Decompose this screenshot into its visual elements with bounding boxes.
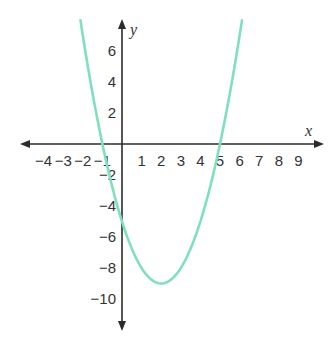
x-axis-right-arrow-icon (314, 140, 324, 148)
y-axis-label: y (128, 21, 138, 39)
x-tick-label: 3 (177, 152, 185, 169)
tick-labels: −4−3−2−1123456789642−2−4−6−8−10 (35, 42, 303, 307)
x-axis-left-arrow-icon (20, 140, 30, 148)
x-axis-label: x (304, 122, 312, 139)
y-axis-up-arrow-icon (118, 19, 126, 29)
y-tick-label: 2 (108, 104, 116, 121)
y-tick-label: 4 (108, 73, 116, 90)
parabola-plot: −4−3−2−1123456789642−2−4−6−8−10 x y (0, 0, 334, 342)
y-tick-label: −8 (99, 259, 116, 276)
x-tick-label: −3 (55, 152, 72, 169)
y-tick-label: −4 (99, 197, 116, 214)
x-tick-label: −4 (35, 152, 52, 169)
x-tick-label: 1 (137, 152, 145, 169)
y-tick-label: −10 (91, 290, 116, 307)
y-tick-label: 6 (108, 42, 116, 59)
x-tick-label: 2 (157, 152, 165, 169)
y-tick-label: −6 (99, 228, 116, 245)
x-tick-label: 4 (196, 152, 204, 169)
x-tick-label: 9 (294, 152, 302, 169)
x-tick-label: −2 (74, 152, 91, 169)
axes (20, 19, 324, 331)
x-tick-label: 7 (255, 152, 263, 169)
x-tick-label: 6 (235, 152, 243, 169)
x-tick-label: 8 (275, 152, 283, 169)
y-axis-down-arrow-icon (118, 321, 126, 331)
